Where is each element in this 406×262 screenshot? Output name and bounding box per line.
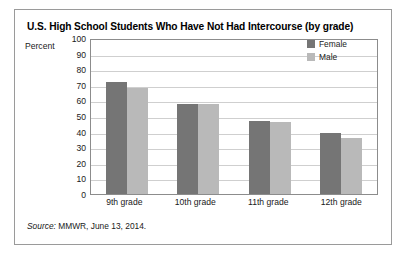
legend-label: Male: [319, 52, 337, 62]
bar: [198, 104, 219, 194]
legend-label: Female: [319, 39, 347, 49]
y-tick-label: 10: [76, 174, 86, 184]
y-tick-label: 70: [76, 81, 86, 91]
bar: [249, 121, 270, 194]
y-tick-label: 0: [81, 190, 86, 200]
bar: [127, 88, 148, 194]
y-tick-label: 100: [72, 34, 86, 44]
plot-wrapper: 0102030405060708090100 9th grade10th gra…: [63, 39, 378, 205]
bar: [270, 122, 291, 194]
source-prefix: Source:: [27, 221, 56, 231]
chart-figure: U.S. High School Students Who Have Not H…: [14, 9, 392, 245]
y-tick-label: 60: [76, 96, 86, 106]
y-tick-label: 20: [76, 159, 86, 169]
page-title: U.S. High School Students Who Have Not H…: [27, 21, 353, 32]
chart-legend: FemaleMale: [307, 39, 347, 62]
bar: [341, 138, 362, 194]
bar-group: [106, 40, 148, 194]
legend-swatch-icon: [307, 40, 315, 48]
y-tick-label: 40: [76, 128, 86, 138]
x-axis: 9th grade10th grade11th grade12th grade: [90, 197, 378, 207]
legend-entry: Female: [307, 39, 347, 49]
x-tick-label: 10th grade: [175, 197, 216, 207]
y-tick-label: 90: [76, 50, 86, 60]
y-tick-label: 80: [76, 65, 86, 75]
bar: [106, 82, 127, 194]
y-tick-label: 50: [76, 112, 86, 122]
bar: [320, 133, 341, 194]
source-text: MMWR, June 13, 2014.: [56, 221, 146, 231]
bar: [177, 104, 198, 194]
y-tick-label: 30: [76, 143, 86, 153]
legend-swatch-icon: [307, 53, 315, 61]
plot-area: [90, 39, 378, 195]
bar-series-layer: [91, 40, 377, 194]
legend-entry: Male: [307, 52, 347, 62]
x-tick-label: 12th grade: [321, 197, 362, 207]
bar-group: [320, 40, 362, 194]
y-axis: 0102030405060708090100: [63, 39, 89, 195]
bar-group: [177, 40, 219, 194]
x-tick-label: 9th grade: [106, 197, 142, 207]
y-axis-unit-label: Percent: [25, 41, 55, 51]
bar-group: [249, 40, 291, 194]
source-note: Source: MMWR, June 13, 2014.: [27, 221, 146, 231]
x-tick-label: 11th grade: [248, 197, 288, 207]
